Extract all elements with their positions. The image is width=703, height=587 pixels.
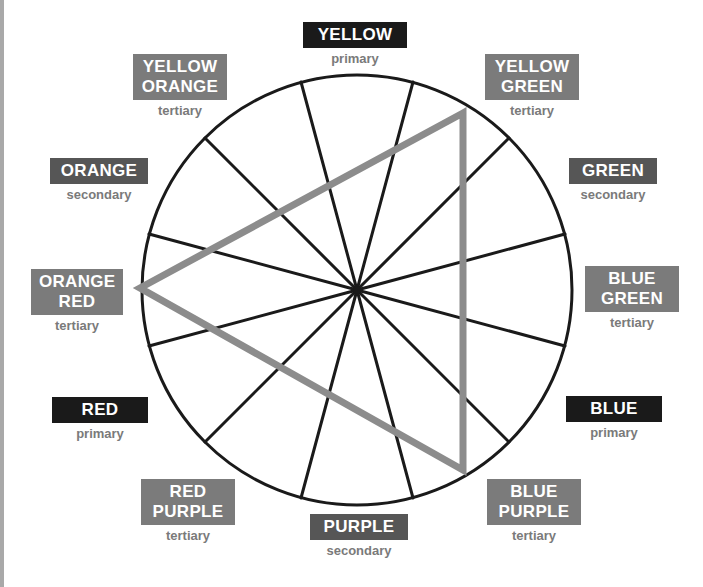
color-box-orange-red: ORANGE RED — [31, 269, 123, 315]
color-name: PURPLE — [495, 502, 573, 522]
label-orange-red: ORANGE RED tertiary — [31, 269, 123, 333]
color-name: ORANGE — [39, 272, 115, 292]
color-name: YELLOW — [141, 57, 219, 77]
category-orange: secondary — [50, 187, 148, 202]
color-name: ORANGE — [58, 161, 140, 181]
color-box-yellow: YELLOW — [303, 22, 407, 48]
color-box-red: RED — [52, 397, 148, 423]
category-yellow: primary — [300, 51, 410, 66]
spoke — [357, 290, 413, 498]
category-yellow-green: tertiary — [485, 103, 579, 118]
label-green: GREEN secondary — [566, 158, 660, 202]
category-blue: primary — [566, 425, 662, 440]
spoke — [149, 290, 357, 346]
label-blue-green: BLUE GREEN tertiary — [585, 266, 679, 330]
color-box-yellow-green: YELLOW GREEN — [485, 54, 579, 100]
label-blue: BLUE primary — [566, 396, 662, 440]
color-name: GREEN — [577, 161, 649, 181]
category-yellow-orange: tertiary — [133, 103, 227, 118]
color-box-purple: PURPLE — [310, 514, 408, 540]
color-box-blue-green: BLUE GREEN — [585, 266, 679, 312]
category-red-purple: tertiary — [141, 528, 235, 543]
label-yellow: YELLOW primary — [300, 22, 410, 66]
category-orange-red: tertiary — [31, 318, 123, 333]
spoke — [357, 82, 413, 290]
color-name: RED — [60, 400, 140, 420]
category-green: secondary — [566, 187, 660, 202]
triad-triangle — [140, 113, 463, 470]
label-blue-purple: BLUE PURPLE tertiary — [487, 479, 581, 543]
color-name: GREEN — [493, 77, 571, 97]
color-box-blue-purple: BLUE PURPLE — [487, 479, 581, 525]
color-box-orange: ORANGE — [50, 158, 148, 184]
color-name: BLUE — [574, 399, 654, 419]
color-name: GREEN — [593, 289, 671, 309]
color-box-green: GREEN — [569, 158, 657, 184]
label-orange: ORANGE secondary — [50, 158, 148, 202]
category-purple: secondary — [310, 543, 408, 558]
category-blue-purple: tertiary — [487, 528, 581, 543]
label-red: RED primary — [52, 397, 148, 441]
label-yellow-orange: YELLOW ORANGE tertiary — [133, 54, 227, 118]
color-name: YELLOW — [493, 57, 571, 77]
color-name: BLUE — [495, 482, 573, 502]
color-box-blue: BLUE — [566, 396, 662, 422]
color-name: RED — [39, 292, 115, 312]
label-red-purple: RED PURPLE tertiary — [141, 479, 235, 543]
label-yellow-green: YELLOW GREEN tertiary — [485, 54, 579, 118]
color-box-red-purple: RED PURPLE — [141, 479, 235, 525]
spoke — [149, 234, 357, 290]
color-name: BLUE — [593, 269, 671, 289]
color-name: PURPLE — [149, 502, 227, 522]
color-name: ORANGE — [141, 77, 219, 97]
color-name: RED — [149, 482, 227, 502]
wheel-center — [353, 286, 361, 294]
color-box-yellow-orange: YELLOW ORANGE — [133, 54, 227, 100]
color-name: YELLOW — [311, 25, 399, 45]
label-purple: PURPLE secondary — [310, 514, 408, 558]
category-blue-green: tertiary — [585, 315, 679, 330]
category-red: primary — [52, 426, 148, 441]
color-name: PURPLE — [318, 517, 400, 537]
